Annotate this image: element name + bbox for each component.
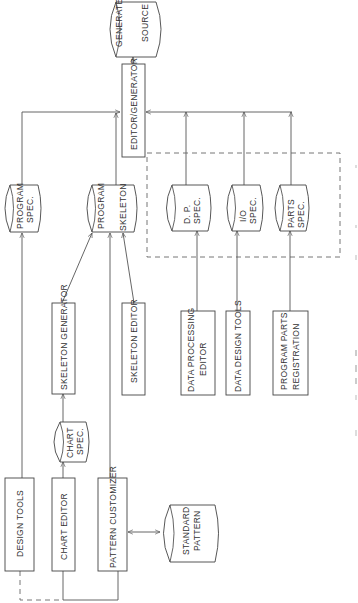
process-label: DATA DESIGN TOOLS [233, 300, 243, 392]
store-label: SPEC. [248, 197, 258, 224]
process-label: SKELETON EDITOR [129, 299, 139, 383]
store-label: STANDARD [181, 506, 191, 555]
process-skeleton-generator[interactable]: SKELETON GENERATOR [52, 284, 75, 394]
process-data-processing-editor[interactable]: DATA PROCESSING EDITOR [181, 308, 215, 395]
store-label: CHART [65, 427, 75, 458]
process-label: EDITOR/GENERATOR [129, 58, 139, 150]
process-design-tools[interactable]: DESIGN TOOLS [5, 478, 34, 571]
store-label: SOURCE [140, 4, 150, 42]
store-label: SPEC. [75, 428, 85, 455]
store-program-spec[interactable]: PROGRAM SPEC. [5, 183, 41, 232]
process-label: PROGRAM PARTS [279, 312, 289, 390]
store-dp-spec[interactable]: D. P. SPEC. [167, 185, 212, 231]
process-label: DATA PROCESSING [186, 308, 196, 392]
store-label: PARTS [286, 199, 296, 228]
store-label: PROGRAM [15, 183, 25, 229]
store-label: SPEC. [192, 197, 202, 224]
flow-diagram: GENERATED SOURCE PROGRAM SPEC. PROGRAM S… [0, 0, 358, 603]
store-label: SPEC. [296, 201, 306, 228]
store-program-skeleton[interactable]: PROGRAM SKELETON [87, 183, 137, 232]
store-label: I/O [238, 210, 248, 222]
process-editor-generator[interactable]: EDITOR/GENERATOR [122, 58, 145, 157]
store-standard-pattern[interactable]: STANDARD PATTERN [164, 505, 219, 562]
store-label: D. P. [182, 205, 192, 224]
store-parts-spec[interactable]: PARTS SPEC. [275, 185, 309, 231]
process-label: EDITOR [198, 342, 208, 376]
process-skeleton-editor[interactable]: SKELETON EDITOR [122, 299, 145, 395]
process-label: CHART EDITOR [59, 493, 69, 560]
store-label: SKELETON [118, 183, 128, 231]
process-chart-editor[interactable]: CHART EDITOR [52, 478, 75, 571]
store-label: PROGRAM [96, 183, 106, 229]
store-generated-source[interactable]: GENERATED SOURCE [110, 0, 161, 57]
store-label: PATTERN [192, 510, 202, 551]
process-label: SKELETON GENERATOR [59, 284, 69, 390]
process-pattern-customizer[interactable]: PATTERN CUSTOMIZER [98, 466, 127, 571]
process-label: REGISTRATION [291, 323, 301, 390]
store-chart-spec[interactable]: CHART SPEC. [54, 422, 89, 462]
process-label: PATTERN CUSTOMIZER [108, 466, 118, 568]
process-data-design-tools[interactable]: DATA DESIGN TOOLS [226, 300, 250, 395]
process-program-parts-registration[interactable]: PROGRAM PARTS REGISTRATION [273, 311, 308, 395]
store-label: SPEC. [25, 196, 35, 223]
store-label: GENERATED [114, 0, 124, 47]
process-label: DESIGN TOOLS [15, 490, 25, 557]
store-io-spec[interactable]: I/O SPEC. [227, 185, 263, 231]
